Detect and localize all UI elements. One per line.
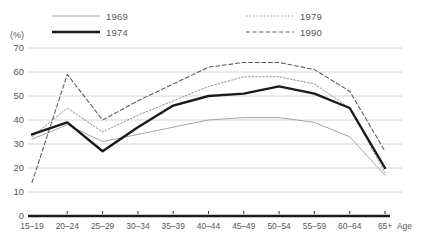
x-tick-label: 45–49 <box>232 221 256 231</box>
line-chart: 1969 1974 1979 1990 <box>0 0 434 237</box>
x-axis: 15–1920–2425–2930–3435–3940–4445–4950–54… <box>20 211 412 231</box>
y-tick-label: 0 <box>19 210 24 221</box>
y-tick-label: 10 <box>13 186 24 197</box>
series-line-1979 <box>32 77 385 173</box>
series-line-1990 <box>32 62 385 182</box>
y-tick-label: 30 <box>13 138 24 149</box>
y-tick-label: 60 <box>13 66 24 77</box>
x-tick-label: 60–64 <box>338 221 362 231</box>
data-series-layer <box>32 62 385 182</box>
x-axis-name: Age <box>397 221 412 231</box>
y-axis-labels: 010203040506070 <box>13 42 24 221</box>
x-tick-label: 50–54 <box>267 221 291 231</box>
x-tick-label: 25–29 <box>91 221 115 231</box>
y-tick-label: 70 <box>13 42 24 53</box>
x-tick-label: 15–19 <box>20 221 44 231</box>
y-tick-label: 50 <box>13 90 24 101</box>
series-line-1969 <box>32 118 385 176</box>
x-tick-label: 40–44 <box>197 221 221 231</box>
x-tick-label: 65+ <box>378 221 392 231</box>
series-line-1974 <box>32 86 385 168</box>
y-tick-label: 40 <box>13 114 24 125</box>
x-tick-label: 55–59 <box>303 221 327 231</box>
x-tick-label: 20–24 <box>56 221 80 231</box>
x-tick-label: 35–39 <box>162 221 186 231</box>
x-tick-label: 30–34 <box>126 221 150 231</box>
plot-area: 15–1920–2425–2930–3435–3940–4445–4950–54… <box>0 0 434 237</box>
y-tick-label: 20 <box>13 162 24 173</box>
